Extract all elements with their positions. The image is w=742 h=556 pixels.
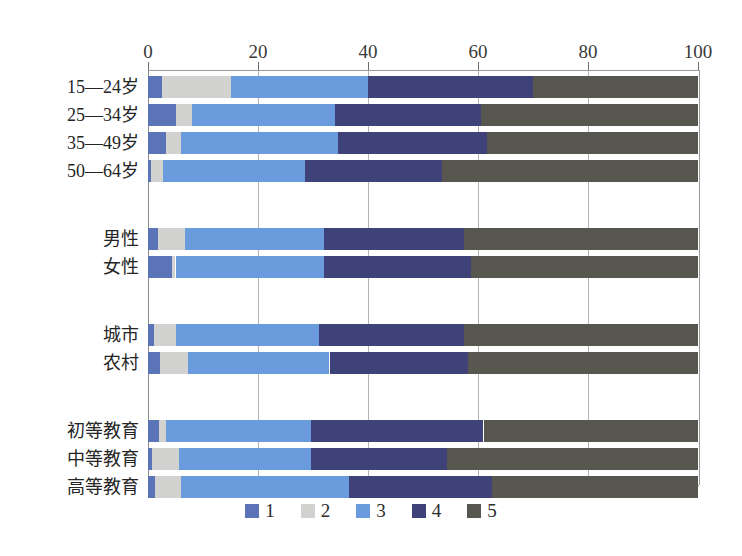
- bar-segment-series-2: [155, 476, 181, 498]
- legend-label-3: 3: [376, 501, 386, 520]
- bar-segment-series-4: [324, 228, 464, 250]
- bar-segment-series-3: [181, 476, 349, 498]
- legend-swatch-icon-3: [356, 504, 370, 518]
- bar-segment-series-4: [349, 476, 492, 498]
- bar-segment-series-5: [468, 352, 698, 374]
- legend-swatch-icon-4: [412, 504, 426, 518]
- bar-segment-series-2: [166, 132, 181, 154]
- bar-row: 女性: [148, 256, 698, 278]
- legend-swatch-icon-2: [301, 504, 315, 518]
- legend-label-4: 4: [432, 501, 442, 520]
- legend-label-1: 1: [265, 501, 275, 520]
- bar-row: 中等教育: [148, 448, 698, 470]
- bar-segment-series-4: [311, 420, 484, 442]
- stacked-bar: [148, 352, 698, 374]
- stacked-bar: [148, 324, 698, 346]
- bar-segment-series-4: [305, 160, 443, 182]
- chart-legend: 12345: [0, 501, 742, 520]
- bar-segment-series-4: [311, 448, 447, 470]
- bar-row: 25—34岁: [148, 104, 698, 126]
- row-label-1: 15—24岁: [67, 77, 139, 97]
- bar-segment-series-2: [176, 104, 193, 126]
- bar-segment-series-5: [447, 448, 698, 470]
- stacked-bar: [148, 104, 698, 126]
- bar-segment-series-3: [179, 448, 311, 470]
- legend-label-2: 2: [321, 501, 331, 520]
- bar-segment-series-3: [176, 256, 325, 278]
- legend-item-3[interactable]: 3: [356, 501, 386, 520]
- row-label-3: 35—49岁: [67, 133, 139, 153]
- bar-segment-series-5: [442, 160, 698, 182]
- bar-segment-series-5: [471, 256, 698, 278]
- stacked-bar: [148, 132, 698, 154]
- row-label-2: 25—34岁: [67, 105, 139, 125]
- x-tick-label-40: 40: [359, 42, 378, 62]
- bar-segment-series-4: [319, 324, 465, 346]
- bar-segment-series-2: [162, 76, 231, 98]
- x-axis-tick-labels: 020406080100: [0, 42, 742, 66]
- stacked-bar: [148, 420, 698, 442]
- legend-item-4[interactable]: 4: [412, 501, 442, 520]
- bar-segment-series-2: [151, 160, 163, 182]
- x-tick-label-100: 100: [684, 42, 713, 62]
- legend-swatch-icon-5: [467, 504, 481, 518]
- bar-segment-series-1: [148, 476, 155, 498]
- bar-segment-series-5: [464, 324, 698, 346]
- stacked-bar: [148, 476, 698, 498]
- row-label-11: 高等教育: [67, 477, 139, 497]
- bar-segment-series-1: [148, 352, 160, 374]
- stacked-bar: [148, 256, 698, 278]
- legend-label-5: 5: [487, 501, 497, 520]
- row-label-8: 农村: [103, 353, 139, 373]
- bar-row: 男性: [148, 228, 698, 250]
- legend-item-5[interactable]: 5: [467, 501, 497, 520]
- bar-row: 城市: [148, 324, 698, 346]
- bar-segment-series-2: [160, 352, 188, 374]
- row-label-7: 城市: [103, 325, 139, 345]
- bar-segment-series-1: [148, 256, 172, 278]
- bar-segment-series-4: [330, 352, 468, 374]
- x-tick-label-20: 20: [249, 42, 268, 62]
- bar-row: 初等教育: [148, 420, 698, 442]
- row-label-4: 50—64岁: [67, 161, 139, 181]
- x-tick-label-80: 80: [579, 42, 598, 62]
- bar-segment-series-3: [163, 160, 305, 182]
- bar-row: 15—24岁: [148, 76, 698, 98]
- bar-segment-series-5: [533, 76, 698, 98]
- bar-segment-series-3: [231, 76, 369, 98]
- bar-segment-series-1: [148, 76, 162, 98]
- row-label-6: 女性: [103, 257, 139, 277]
- bar-segment-series-1: [148, 104, 176, 126]
- legend-item-1[interactable]: 1: [245, 501, 275, 520]
- bar-segment-series-5: [481, 104, 698, 126]
- stacked-bar: [148, 76, 698, 98]
- row-label-10: 中等教育: [67, 449, 139, 469]
- bar-segment-series-3: [176, 324, 319, 346]
- bar-segment-series-1: [148, 420, 159, 442]
- bar-segment-series-3: [188, 352, 329, 374]
- bar-segment-series-2: [152, 448, 179, 470]
- bar-segment-series-3: [166, 420, 311, 442]
- bar-segment-series-4: [324, 256, 471, 278]
- bar-row: 35—49岁: [148, 132, 698, 154]
- bar-segment-series-4: [338, 132, 487, 154]
- bar-segment-series-5: [464, 228, 698, 250]
- bar-segment-series-3: [185, 228, 324, 250]
- bar-row: 高等教育: [148, 476, 698, 498]
- bar-segment-series-2: [154, 324, 176, 346]
- legend-swatch-icon-1: [245, 504, 259, 518]
- row-label-9: 初等教育: [67, 421, 139, 441]
- stacked-bar-chart: 020406080100 15—24岁25—34岁35—49岁50—64岁男性女…: [0, 0, 742, 556]
- bar-segment-series-5: [492, 476, 698, 498]
- bar-segment-series-1: [148, 228, 158, 250]
- bar-segment-series-2: [159, 420, 166, 442]
- bar-segment-series-2: [158, 228, 184, 250]
- bar-segment-series-5: [487, 132, 698, 154]
- stacked-bar: [148, 228, 698, 250]
- bar-segment-series-1: [148, 132, 166, 154]
- bar-segment-series-3: [181, 132, 338, 154]
- bar-row: 农村: [148, 352, 698, 374]
- bar-segment-series-5: [484, 420, 699, 442]
- row-label-5: 男性: [103, 229, 139, 249]
- legend-item-2[interactable]: 2: [301, 501, 331, 520]
